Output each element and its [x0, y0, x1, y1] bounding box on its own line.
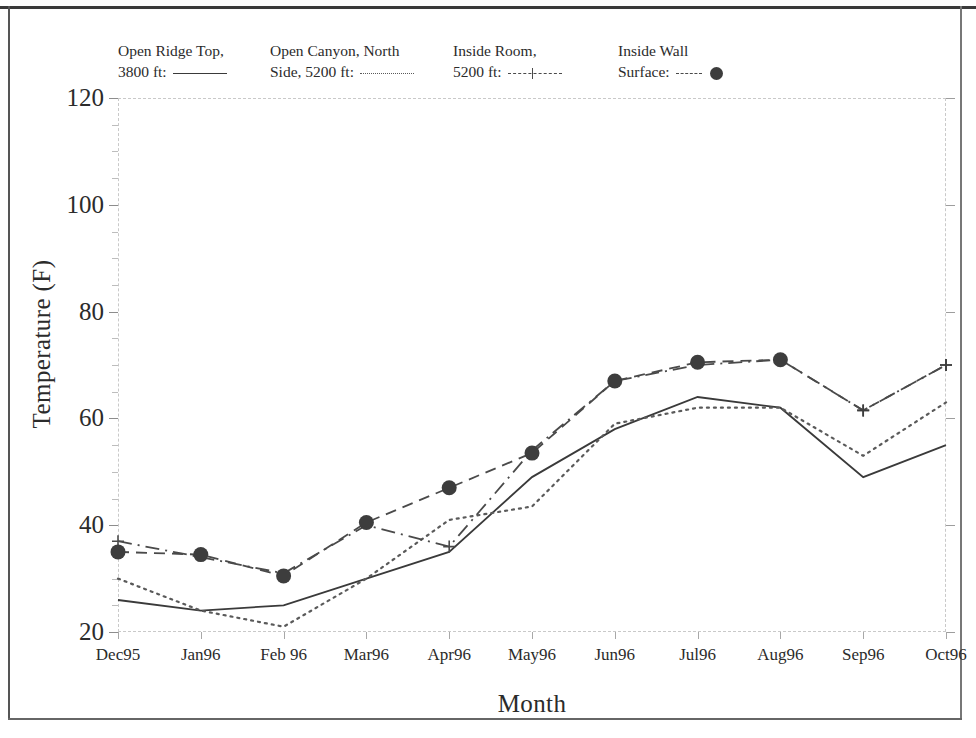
data-point-marker	[940, 359, 952, 371]
y-axis-major-tick	[109, 312, 118, 313]
legend-entry-line2: 3800 ft:	[118, 61, 227, 82]
x-axis-tick-label: Jan96	[181, 645, 221, 665]
x-axis-tick	[946, 632, 947, 639]
y-axis-tick-label: 120	[67, 84, 105, 112]
x-axis-tick	[863, 632, 864, 639]
x-axis-tick	[366, 632, 367, 639]
y-axis-major-tick-right	[946, 525, 955, 526]
legend-entry-label: 3800 ft:	[118, 63, 167, 80]
y-axis-major-tick	[109, 632, 118, 633]
frame-right-border	[960, 6, 962, 720]
series-line	[118, 397, 946, 611]
x-axis-tick	[532, 632, 533, 639]
series-2	[118, 402, 946, 626]
y-axis-major-tick	[109, 418, 118, 419]
legend-entry-line1: Open Ridge Top,	[118, 40, 227, 61]
frame-left-border	[8, 6, 10, 720]
x-axis-tick-label: Sep96	[842, 645, 885, 665]
data-point-marker	[193, 547, 208, 562]
data-point-marker	[111, 544, 126, 559]
y-axis-tick-label: 80	[79, 298, 104, 326]
y-axis-major-tick-right	[946, 98, 955, 99]
y-axis-tick-label: 20	[79, 618, 104, 646]
plot-area: 20406080100120 Dec95Jan96Feb 96Mar96Apr9…	[118, 98, 946, 632]
legend-entry-label: 5200 ft:	[453, 63, 502, 80]
x-axis-tick-label: Aug96	[757, 645, 803, 665]
legend-entry-line1: Inside Wall	[618, 40, 730, 61]
legend-entry-4: Inside WallSurface:	[618, 40, 730, 82]
x-axis-tick-label: Mar96	[344, 645, 389, 665]
legend-entry-line2: Side, 5200 ft:	[270, 61, 414, 82]
data-point-marker	[359, 515, 374, 530]
legend-sample-dashdot	[508, 67, 562, 79]
series-1	[118, 397, 946, 611]
legend-entry-line2: Surface:	[618, 61, 730, 82]
x-axis-tick	[201, 632, 202, 639]
y-axis-tick-label: 40	[79, 511, 104, 539]
filled-circle-marker-icon	[710, 67, 723, 80]
y-axis-major-tick-right	[946, 632, 955, 633]
chart-legend: Open Ridge Top,3800 ft:Open Canyon, Nort…	[118, 40, 918, 92]
series-line	[118, 360, 946, 576]
data-point-marker	[525, 446, 540, 461]
figure-canvas: Open Ridge Top,3800 ft:Open Canyon, Nort…	[0, 0, 976, 738]
data-point-marker	[773, 352, 788, 367]
y-axis-tick-label: 60	[79, 404, 104, 432]
x-axis-tick-label: Jun96	[594, 645, 635, 665]
x-axis-tick	[449, 632, 450, 639]
legend-entry-3: Inside Room,5200 ft:	[453, 40, 562, 82]
frame-bottom-border	[8, 718, 962, 720]
frame-top-border	[0, 6, 976, 9]
y-axis-major-tick	[109, 525, 118, 526]
y-axis-major-tick-right	[946, 205, 955, 206]
data-point-marker	[443, 541, 455, 553]
x-axis-title: Month	[118, 690, 946, 718]
x-axis-tick-label: Jul96	[679, 645, 716, 665]
y-axis-title: Temperature (F)	[28, 224, 56, 464]
y-axis-major-tick-right	[946, 312, 955, 313]
y-axis-major-tick	[109, 205, 118, 206]
legend-sample-solid	[173, 67, 227, 79]
y-axis-tick-label: 100	[67, 191, 105, 219]
legend-sample-dotted	[360, 67, 414, 79]
x-axis-tick-label: Oct96	[925, 645, 967, 665]
data-point-marker	[276, 568, 291, 583]
x-axis-tick	[698, 632, 699, 639]
x-axis-tick-label: May96	[508, 645, 556, 665]
series-line	[118, 360, 946, 574]
series-3	[112, 359, 952, 573]
y-axis-major-tick-right	[946, 418, 955, 419]
legend-entry-1: Open Ridge Top,3800 ft:	[118, 40, 227, 82]
x-axis-tick	[780, 632, 781, 639]
legend-entry-label: Side, 5200 ft:	[270, 63, 354, 80]
legend-entry-line1: Inside Room,	[453, 40, 562, 61]
legend-entry-line2: 5200 ft:	[453, 61, 562, 82]
series-4	[111, 352, 953, 583]
legend-entry-line1: Open Canyon, North	[270, 40, 414, 61]
y-axis-major-tick	[109, 98, 118, 99]
legend-entry-label: Surface:	[618, 63, 670, 80]
data-point-marker	[607, 374, 622, 389]
data-point-marker	[690, 355, 705, 370]
x-axis-tick	[284, 632, 285, 639]
x-axis-tick	[118, 632, 119, 639]
x-axis-tick-label: Apr96	[427, 645, 470, 665]
series-line	[118, 402, 946, 626]
data-point-marker	[442, 480, 457, 495]
legend-sample-dashed-circle	[676, 67, 730, 79]
series-layer	[118, 98, 946, 632]
x-axis-tick	[615, 632, 616, 639]
x-axis-tick-label: Feb 96	[260, 645, 307, 665]
legend-entry-2: Open Canyon, NorthSide, 5200 ft:	[270, 40, 414, 82]
x-axis-tick-label: Dec95	[96, 645, 140, 665]
data-point-marker	[857, 404, 869, 416]
